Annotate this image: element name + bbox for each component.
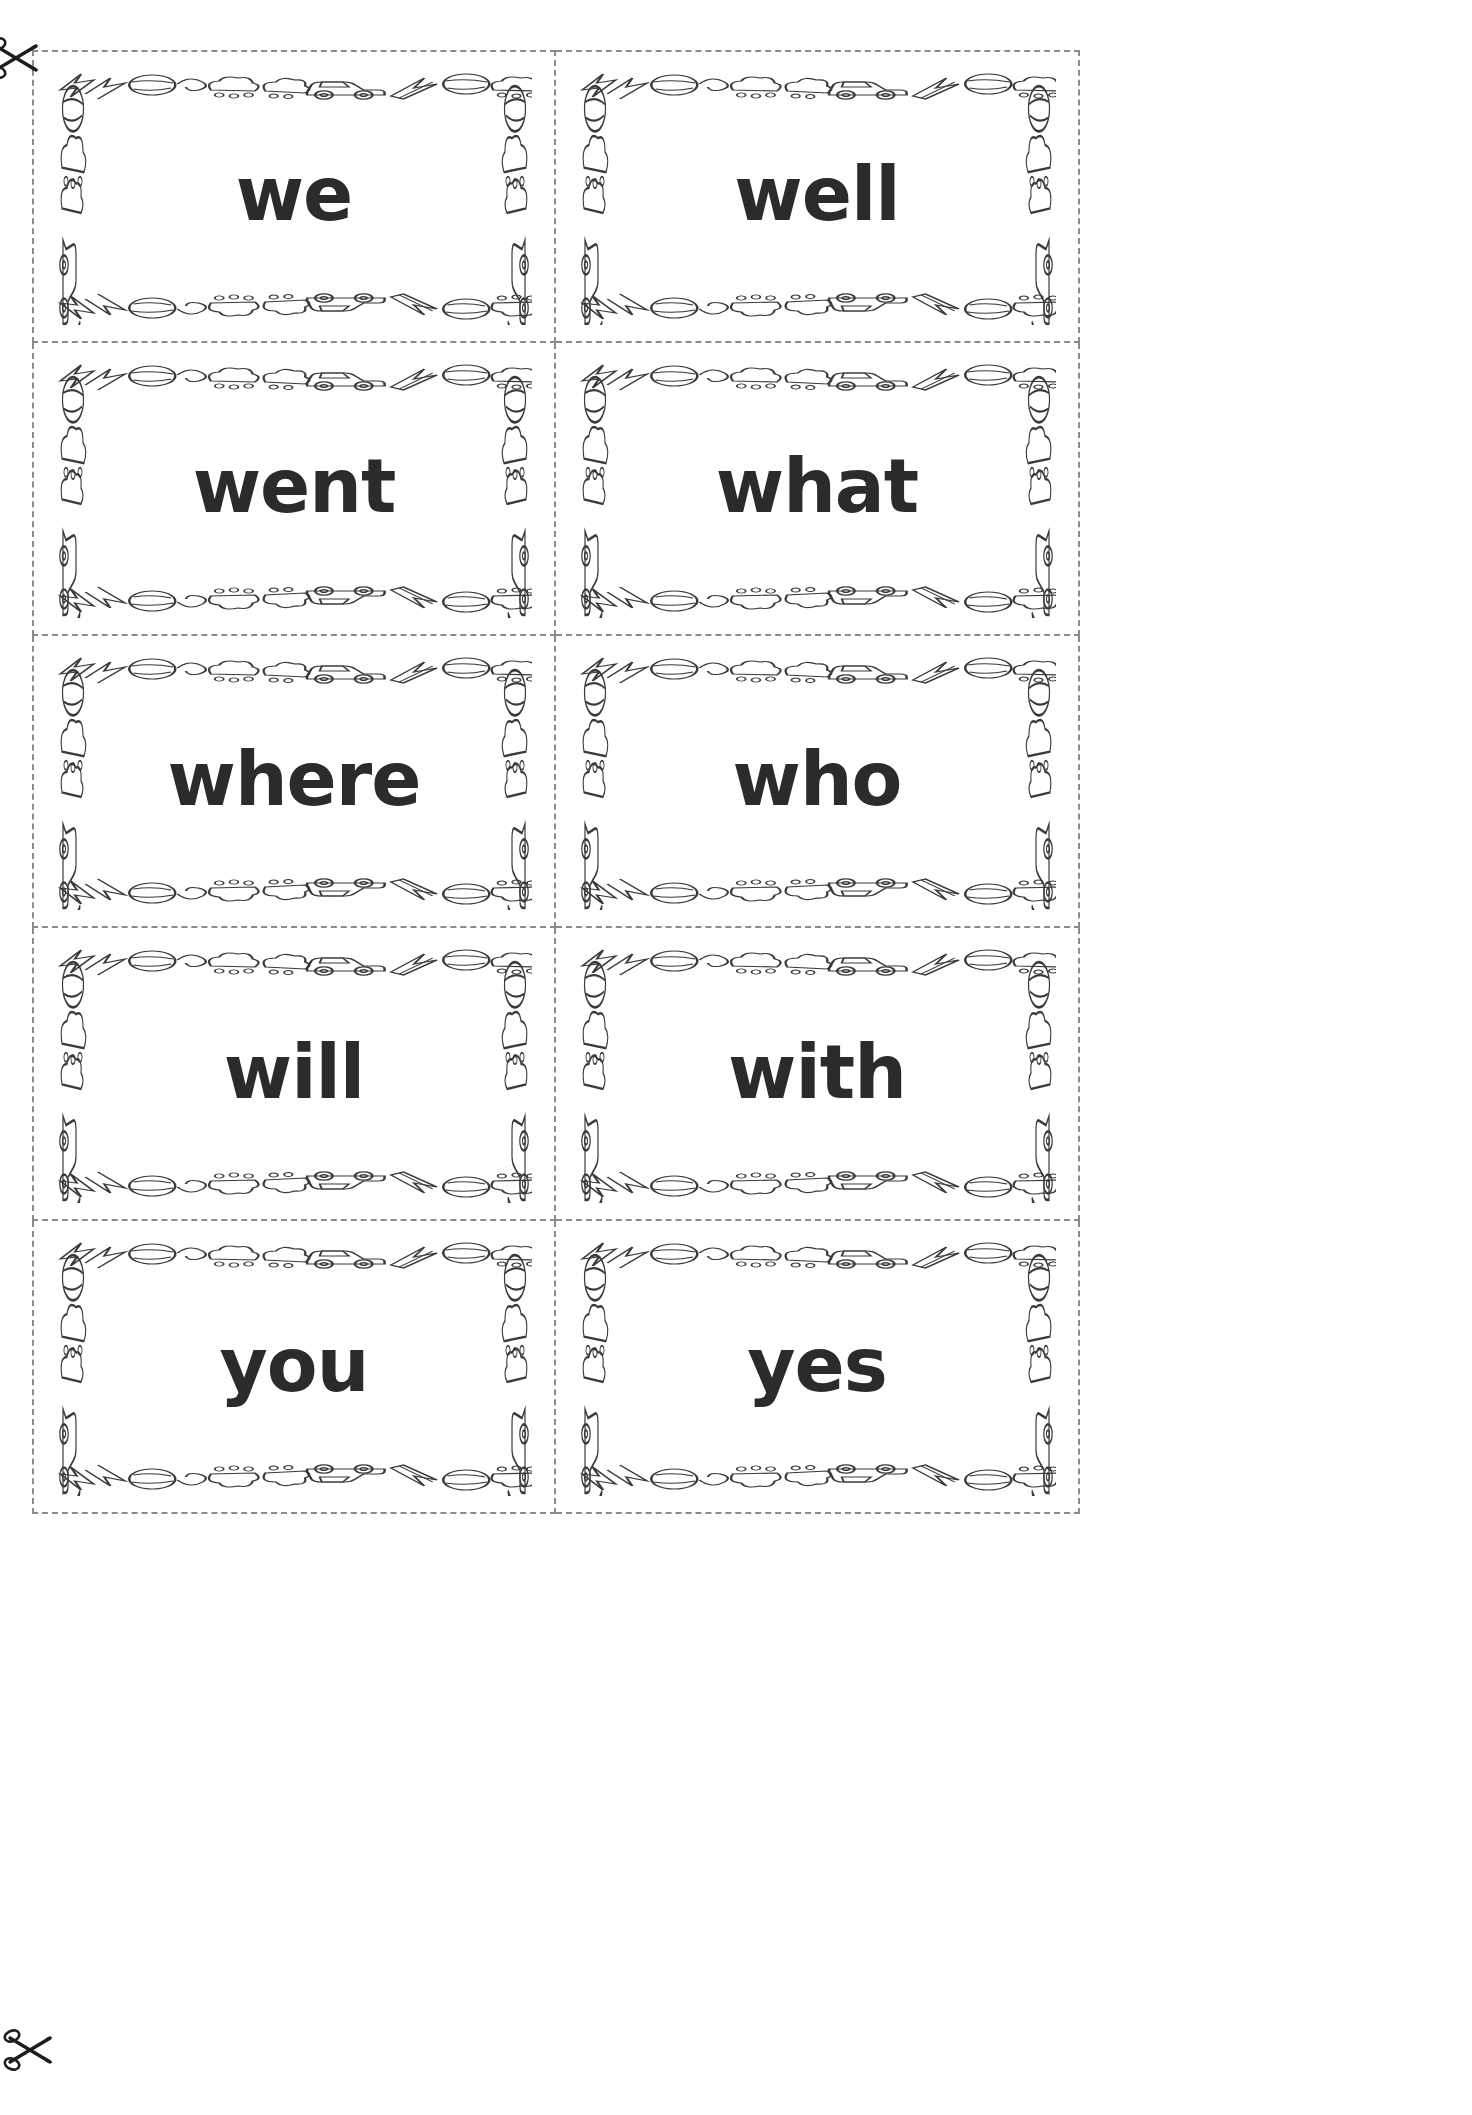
sight-word: where [168,742,421,820]
card-border-right [1022,1237,1056,1496]
card-border-bottom [578,291,1056,325]
sight-word: will [224,1035,364,1113]
flash-card[interactable]: where [56,652,532,911]
card-border-left [56,68,90,325]
cut-cell: you [32,1221,556,1514]
card-border-left [578,359,612,618]
flash-card[interactable]: went [56,359,532,618]
sight-word: went [193,449,396,527]
flash-card[interactable]: who [578,652,1056,911]
cut-cell: what [556,343,1080,636]
cut-cell: where [32,636,556,929]
card-border-right [498,1237,532,1496]
card-border-top [578,652,1056,686]
worksheet-page: wewellwentwhatwherewhowillwithyouyes [0,0,1472,2115]
card-border-bottom [56,584,532,618]
card-border-left [578,1237,612,1496]
card-border-left [56,1237,90,1496]
sight-word: we [236,157,353,235]
card-border-bottom [56,876,532,910]
card-border-top [56,652,532,686]
cut-cell: yes [556,1221,1080,1514]
card-border-right [1022,68,1056,325]
cut-cell: well [556,50,1080,343]
flash-card[interactable]: what [578,359,1056,618]
card-border-right [498,944,532,1203]
card-border-bottom [578,584,1056,618]
card-border-left [56,359,90,618]
cut-cell: who [556,636,1080,929]
card-border-right [498,652,532,911]
sight-word: with [728,1035,906,1113]
flash-card[interactable]: with [578,944,1056,1203]
sight-word: who [733,742,902,820]
flash-card[interactable]: you [56,1237,532,1496]
card-border-bottom [578,1169,1056,1203]
sight-word: what [716,449,918,527]
card-border-top [56,68,532,102]
card-border-right [1022,359,1056,618]
card-border-bottom [56,1462,532,1496]
cut-cell: will [32,928,556,1221]
cut-cell: went [32,343,556,636]
card-border-left [56,652,90,911]
card-border-top [578,359,1056,393]
card-border-top [578,1237,1056,1271]
card-border-left [578,68,612,325]
card-border-left [56,944,90,1203]
card-border-right [1022,652,1056,911]
card-border-left [578,652,612,911]
flash-card[interactable]: well [578,68,1056,325]
flash-card-grid: wewellwentwhatwherewhowillwithyouyes [32,50,1080,1514]
flash-card[interactable]: we [56,68,532,325]
scissors-icon [2,2022,58,2078]
card-border-top [578,68,1056,102]
sight-word: well [734,157,899,235]
card-border-right [1022,944,1056,1203]
card-border-bottom [578,876,1056,910]
card-border-top [56,1237,532,1271]
cut-cell: we [32,50,556,343]
flash-card[interactable]: will [56,944,532,1203]
sight-word: you [220,1328,369,1406]
card-border-top [56,944,532,978]
card-border-top [578,944,1056,978]
card-border-bottom [578,1462,1056,1496]
flash-card[interactable]: yes [578,1237,1056,1496]
sight-word: yes [747,1328,886,1406]
cut-cell: with [556,928,1080,1221]
card-border-bottom [56,1169,532,1203]
card-border-bottom [56,291,532,325]
card-border-right [498,68,532,325]
card-border-right [498,359,532,618]
card-border-top [56,359,532,393]
card-border-left [578,944,612,1203]
scissors-icon [0,30,44,86]
